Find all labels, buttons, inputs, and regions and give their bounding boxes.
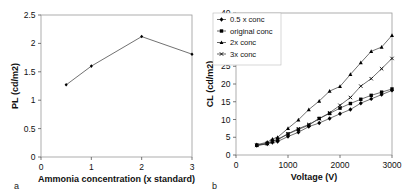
panel-b: 05101520253035400100020003000Voltage (V)… xyxy=(202,0,404,192)
y-tick-label: 20 xyxy=(221,79,231,89)
y-tick-label: 2 xyxy=(31,38,36,48)
x-tick-label: 1000 xyxy=(279,160,298,170)
y-tick-label: 1 xyxy=(31,95,36,105)
data-point xyxy=(370,94,373,97)
panel-a: 00.511.522.50123Ammonia concentration (x… xyxy=(0,0,202,192)
y-tick-label: 1.5 xyxy=(24,67,36,77)
legend-label-3: 3x conc xyxy=(230,50,256,59)
x-tick-label: 1 xyxy=(89,162,94,172)
y-tick-label: 10 xyxy=(221,115,231,125)
y-axis-title: CL (cd/m2) xyxy=(205,61,215,107)
y-tick-label: 0 xyxy=(226,150,231,160)
y-tick-label: 0 xyxy=(31,152,36,162)
two-panel-figure: 00.511.522.50123Ammonia concentration (x… xyxy=(0,0,404,192)
y-tick-label: 0.5 xyxy=(24,124,36,134)
x-tick-label: 3000 xyxy=(383,160,402,170)
legend-label-2: 2x conc xyxy=(230,38,256,47)
x-tick-label: 2000 xyxy=(331,160,350,170)
x-axis-title: Ammonia concentration (x standard) xyxy=(38,174,195,184)
data-point xyxy=(349,102,352,105)
y-tick-label: 5 xyxy=(226,132,231,142)
data-point xyxy=(390,87,393,90)
legend: 0.5 x concoriginal conc2x conc3x conc xyxy=(213,13,281,65)
panel-b-letter: b xyxy=(212,181,217,191)
y-axis-title: PL (cd/m2) xyxy=(10,63,20,109)
legend-label-1: original conc xyxy=(230,27,273,36)
y-tick-label: 15 xyxy=(221,97,231,107)
panel-a-plot: 00.511.522.50123Ammonia concentration (x… xyxy=(0,0,202,192)
x-tick-label: 2 xyxy=(139,162,144,172)
x-axis-title: Voltage (V) xyxy=(291,172,337,182)
legend-marker xyxy=(220,29,223,32)
y-tick-label: 2.5 xyxy=(24,10,36,20)
plot-area-frame xyxy=(41,15,192,157)
x-tick-label: 0 xyxy=(234,160,239,170)
data-point xyxy=(380,90,383,93)
panel-a-letter: a xyxy=(14,181,19,191)
x-tick-label: 3 xyxy=(190,162,195,172)
legend-label-0: 0.5 x conc xyxy=(230,15,265,24)
x-tick-label: 0 xyxy=(39,162,44,172)
data-point xyxy=(359,98,362,101)
panel-b-plot: 05101520253035400100020003000Voltage (V)… xyxy=(202,0,404,192)
